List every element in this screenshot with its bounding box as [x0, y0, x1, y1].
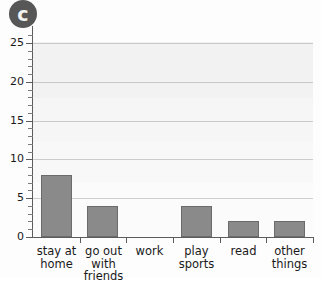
- y-axis-tick-label: 25: [0, 37, 24, 48]
- y-axis-tick-minor: [28, 97, 33, 98]
- bar: [41, 175, 72, 237]
- plot-area: [33, 42, 313, 237]
- y-axis-tick-major: [26, 237, 33, 238]
- x-axis-tick: [80, 237, 81, 243]
- y-axis-tick-label: 15: [0, 115, 24, 126]
- x-axis-category-label-line: read: [220, 245, 267, 258]
- y-axis-tick-minor: [28, 190, 33, 191]
- gridline: [33, 121, 313, 122]
- y-axis-tick-minor: [28, 59, 33, 60]
- x-axis-category-label: read: [220, 245, 267, 258]
- y-axis-tick-label: 5: [0, 192, 24, 203]
- x-axis-category-label-line: friends: [80, 270, 127, 283]
- gridline: [33, 82, 313, 83]
- y-axis-tick-label: 0: [0, 231, 24, 242]
- x-axis-category-label: otherthings: [266, 245, 313, 270]
- x-axis-category-label: work: [126, 245, 173, 258]
- x-axis-category-label-line: things: [266, 258, 313, 271]
- y-axis-tick-minor: [28, 35, 33, 36]
- y-axis-tick-major: [26, 121, 33, 122]
- gridline: [33, 198, 313, 199]
- y-axis-tick-label: 10: [0, 153, 24, 164]
- x-axis-tick: [220, 237, 221, 243]
- y-axis-tick-minor: [28, 90, 33, 91]
- x-axis-tick: [126, 237, 127, 243]
- y-axis-labels: 0510152025: [0, 0, 24, 277]
- y-axis-tick-minor: [28, 214, 33, 215]
- x-axis-category-label-line: work: [126, 245, 173, 258]
- bar: [274, 221, 305, 237]
- gridline: [33, 43, 313, 44]
- bar: [87, 206, 118, 237]
- x-axis-category-label-line: stay at: [33, 245, 80, 258]
- y-axis-tick-label: 20: [0, 76, 24, 87]
- bar: [228, 221, 259, 237]
- y-axis-tick-minor: [28, 206, 33, 207]
- y-axis-tick-minor: [28, 113, 33, 114]
- y-axis-tick-minor: [28, 136, 33, 137]
- y-axis-tick-minor: [28, 74, 33, 75]
- y-axis-tick-minor: [28, 105, 33, 106]
- x-axis-tick: [173, 237, 174, 243]
- y-axis-tick-minor: [28, 66, 33, 67]
- y-axis-tick-minor: [28, 144, 33, 145]
- y-axis-tick-minor: [28, 167, 33, 168]
- x-axis-category-label-line: home: [33, 258, 80, 271]
- y-axis-tick-major: [26, 159, 33, 160]
- x-axis-category-label-line: sports: [173, 258, 220, 271]
- y-axis-tick-minor: [28, 152, 33, 153]
- y-axis-tick-minor: [28, 229, 33, 230]
- x-axis-line: [26, 237, 314, 238]
- x-axis-category-label-line: other: [266, 245, 313, 258]
- y-axis-tick-minor: [28, 51, 33, 52]
- y-axis-tick-minor: [28, 221, 33, 222]
- x-axis-category-label-line: go out: [80, 245, 127, 258]
- x-axis-category-label-line: play: [173, 245, 220, 258]
- y-axis-tick-major: [26, 82, 33, 83]
- y-axis-tick-major: [26, 43, 33, 44]
- bar: [181, 206, 212, 237]
- x-axis-tick: [266, 237, 267, 243]
- x-axis-tick: [313, 237, 314, 243]
- gridline: [33, 159, 313, 160]
- y-axis-tick-minor: [28, 183, 33, 184]
- y-axis-tick-minor: [28, 175, 33, 176]
- y-axis-tick-major: [26, 198, 33, 199]
- y-axis-tick-minor: [28, 128, 33, 129]
- x-axis-category-label: stay athome: [33, 245, 80, 270]
- x-axis-category-label: playsports: [173, 245, 220, 270]
- x-axis-category-label: go outwithfriends: [80, 245, 127, 283]
